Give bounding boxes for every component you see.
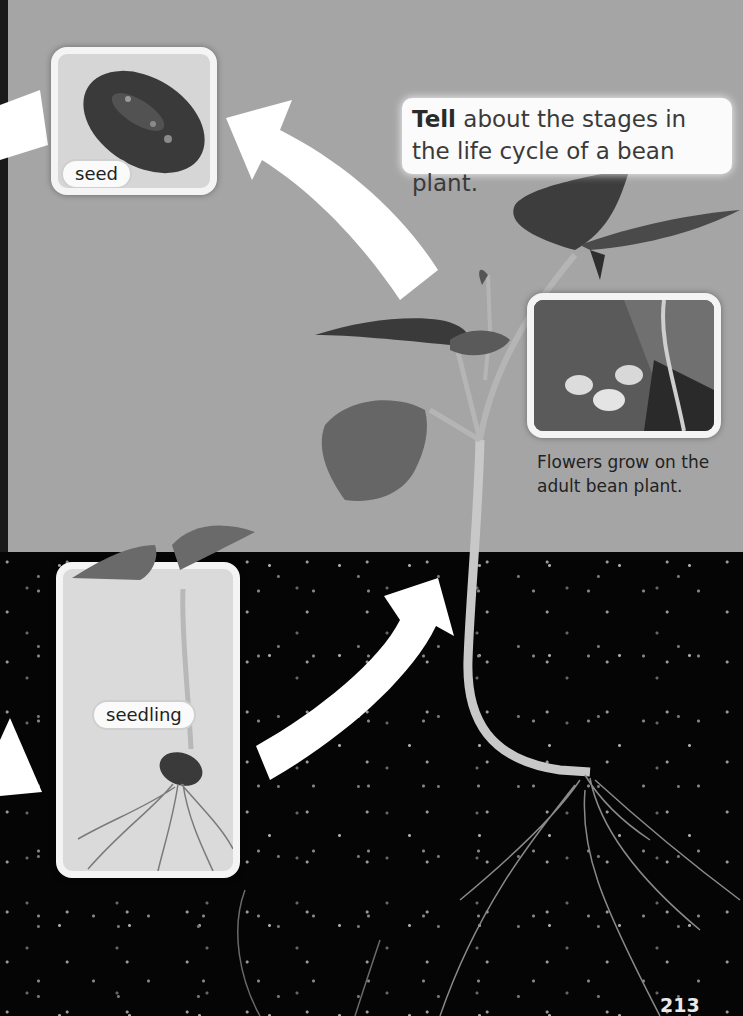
page-number: 213 — [660, 995, 700, 1015]
bean-flowers-image — [534, 300, 714, 431]
instruction-callout: Tell about the stages in the life cycle … — [402, 98, 732, 174]
arrow-seedling-to-plant — [256, 578, 454, 780]
arrow-to-seed-left — [0, 90, 48, 160]
seedling-card: seedling — [56, 562, 240, 878]
flower-caption: Flowers grow on the adult bean plant. — [537, 450, 737, 498]
arrow-to-seedling-left — [0, 718, 42, 796]
flower-inset-card — [527, 293, 721, 438]
callout-keyword: Tell — [412, 106, 456, 132]
stage-label-seedling: seedling — [92, 700, 196, 730]
seed-card: seed — [51, 47, 217, 195]
stage-label-seed: seed — [61, 159, 132, 189]
